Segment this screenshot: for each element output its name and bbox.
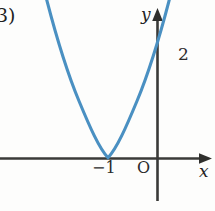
graph-canvas	[0, 0, 215, 211]
y-axis-label: y	[141, 6, 151, 23]
parabola-figure: 3) y x O −1 2	[0, 0, 215, 211]
x-axis-label: x	[199, 163, 209, 180]
parabola-curve	[41, 0, 175, 158]
part-label: 3)	[0, 6, 16, 25]
y-axis-arrowhead	[152, 8, 163, 21]
origin-label: O	[137, 160, 150, 176]
y-tick-label-two: 2	[178, 46, 189, 63]
x-tick-label-negative-one: −1	[92, 160, 116, 176]
